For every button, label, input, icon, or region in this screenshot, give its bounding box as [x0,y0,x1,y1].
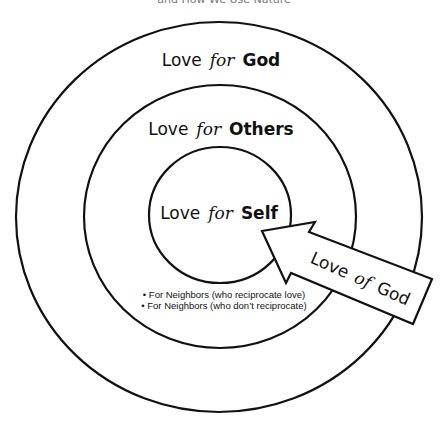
outer-label-connector: for [208,50,236,70]
inner-ring-label: Love for Self [160,203,278,223]
middle-ring-label: Love for Others [148,119,293,139]
inner-label-prefix: Love [160,203,200,223]
middle-label-prefix: Love [148,119,188,139]
neighbors-reciprocate: • For Neighbors (who reciprocate love) [143,289,305,300]
outer-ring-label: Love for God [162,50,281,70]
middle-label-connector: for [194,119,222,139]
love-concentric-diagram: and How We Use Nature Love for God Love … [0,0,447,426]
partial-caption: and How We Use Nature [157,0,291,6]
inner-label-object: Self [241,203,279,223]
inner-label-connector: for [206,203,234,223]
middle-label-object: Others [229,119,294,139]
neighbors-dont-reciprocate: • For Neighbors (who don’t reciprocate) [141,300,306,311]
outer-label-object: God [242,50,280,70]
outer-label-prefix: Love [162,50,202,70]
